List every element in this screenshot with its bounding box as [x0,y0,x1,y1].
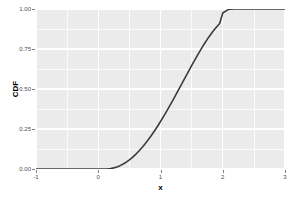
x-axis-tick-labels: -10123 [0,0,294,199]
x-axis-title: x [36,184,285,192]
y-axis-title: CDF [10,9,21,169]
x-tick-label: 3 [283,174,286,180]
x-tick-mark [285,170,286,173]
x-tick-mark [98,170,99,173]
x-tick-label: -1 [33,174,38,180]
x-tick-label: 2 [221,174,224,180]
x-tick-mark [223,170,224,173]
x-tick-mark [161,170,162,173]
x-tick-label: 0 [97,174,100,180]
x-tick-mark [36,170,37,173]
x-tick-label: 1 [159,174,162,180]
cdf-plot: 0.000.250.500.751.00 -10123 x CDF [0,0,294,199]
